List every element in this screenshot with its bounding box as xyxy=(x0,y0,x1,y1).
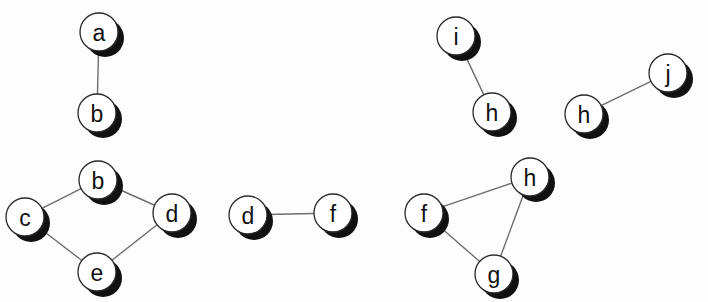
graph-node[interactable]: c xyxy=(6,198,50,242)
node-circle[interactable] xyxy=(475,255,513,293)
node-circle[interactable] xyxy=(80,13,118,51)
node-circle[interactable] xyxy=(405,194,443,232)
graph-node[interactable]: a xyxy=(80,13,124,57)
graph-edge xyxy=(42,189,81,209)
node-circle[interactable] xyxy=(473,93,511,131)
node-circle[interactable] xyxy=(511,158,549,196)
component-edges xyxy=(601,81,651,105)
graph-edge xyxy=(112,225,157,261)
nodes-layer: abbcdedffhgihhj xyxy=(6,13,693,299)
graph-node[interactable]: b xyxy=(78,94,122,138)
graph-edge xyxy=(97,51,98,94)
graph-node[interactable]: g xyxy=(475,255,519,299)
graph-node[interactable]: d xyxy=(153,194,197,238)
component-nodes: df xyxy=(229,194,358,240)
node-circle[interactable] xyxy=(314,194,352,232)
node-circle[interactable] xyxy=(153,194,191,232)
graph-node[interactable]: h xyxy=(565,95,609,139)
graph-node[interactable]: f xyxy=(405,194,449,238)
node-circle[interactable] xyxy=(78,253,116,291)
graph-edge xyxy=(442,183,512,207)
node-circle[interactable] xyxy=(229,196,267,234)
component-nodes: fhg xyxy=(405,158,555,299)
component-edges xyxy=(267,213,314,214)
graph-node[interactable]: e xyxy=(78,253,122,297)
node-circle[interactable] xyxy=(437,17,475,55)
graph-diagram: abbcdedffhgihhj xyxy=(0,0,708,302)
graph-canvas: abbcdedffhgihhj xyxy=(0,0,708,302)
node-circle[interactable] xyxy=(565,95,603,133)
component-nodes: hj xyxy=(565,54,693,139)
graph-node[interactable]: d xyxy=(229,196,273,240)
graph-edge xyxy=(601,81,651,105)
graph-node[interactable]: i xyxy=(437,17,481,61)
component-nodes: ab xyxy=(78,13,124,138)
graph-node[interactable]: b xyxy=(79,161,123,205)
graph-node[interactable]: h xyxy=(511,158,555,202)
component-nodes: bcde xyxy=(6,161,197,297)
node-circle[interactable] xyxy=(6,198,44,236)
component-nodes: ih xyxy=(437,17,517,137)
node-circle[interactable] xyxy=(649,54,687,92)
graph-node[interactable]: j xyxy=(649,54,693,98)
graph-node[interactable]: h xyxy=(473,93,517,137)
node-circle[interactable] xyxy=(78,94,116,132)
component-edges xyxy=(438,183,523,261)
node-circle[interactable] xyxy=(79,161,117,199)
component-edges xyxy=(97,51,98,94)
graph-edge xyxy=(501,195,524,256)
graph-node[interactable]: f xyxy=(314,194,358,238)
graph-edge xyxy=(267,213,314,214)
